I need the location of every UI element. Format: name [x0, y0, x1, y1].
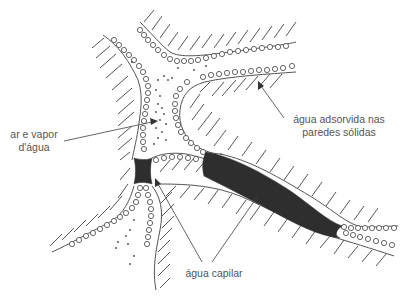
leader-capillary-channel	[212, 195, 258, 262]
capillary-water-neck	[134, 158, 152, 184]
label-capillary-line1: água capilar	[182, 267, 246, 280]
arrowhead-icon	[155, 178, 161, 187]
label-capillary-water: água capilar	[182, 267, 246, 280]
capillary-water-channel	[203, 152, 342, 238]
adsorbed-water-beads-right-exit	[341, 224, 396, 230]
label-adsorbed-line1: água adsorvida nas	[286, 113, 392, 126]
adsorbed-water-beads-upper-left	[111, 37, 150, 151]
leader-capillary-neck	[155, 178, 202, 262]
solid-particle-lower-left	[50, 168, 143, 252]
solid-particle-upper-right	[137, 10, 296, 64]
label-air-line2: d'água	[6, 141, 62, 154]
solid-particle-upper-left	[92, 35, 151, 160]
solid-particle-bottom	[143, 185, 174, 290]
label-adsorbed-water: água adsorvida nas paredes sólidas	[286, 113, 392, 138]
label-air-line1: ar e vapor	[6, 128, 62, 141]
label-air-vapor: ar e vapor d'água	[6, 128, 62, 153]
arrowhead-icon	[150, 118, 158, 125]
label-adsorbed-line2: paredes sólidas	[286, 126, 392, 139]
air-vapor-dots	[115, 61, 207, 265]
adsorbed-water-beads-upper	[137, 27, 288, 63]
adsorbed-water-beads-bottom	[143, 185, 153, 246]
